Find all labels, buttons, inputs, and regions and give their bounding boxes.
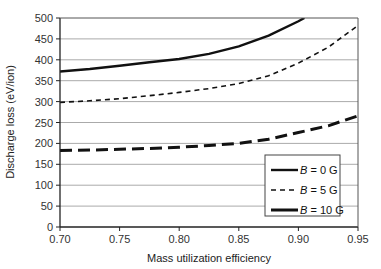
series-line-2 bbox=[60, 116, 358, 151]
x-tick-label: 0.85 bbox=[228, 233, 249, 245]
y-axis-label: Discharge loss (eV/ion) bbox=[4, 65, 16, 179]
x-axis-label: Mass utilization efficiency bbox=[147, 252, 271, 264]
y-tick-label: 300 bbox=[35, 96, 53, 108]
x-tick-label: 0.95 bbox=[347, 233, 368, 245]
y-tick-label: 200 bbox=[35, 137, 53, 149]
y-tick-label: 250 bbox=[35, 117, 53, 129]
series-line-1 bbox=[60, 26, 358, 103]
series-lines bbox=[60, 18, 358, 151]
series-line-0 bbox=[60, 18, 304, 72]
y-tick-label: 0 bbox=[47, 221, 53, 233]
y-tick-label: 500 bbox=[35, 12, 53, 24]
y-tick-label: 450 bbox=[35, 33, 53, 45]
legend: B = 0 GB = 5 GB = 10 G bbox=[265, 155, 344, 216]
y-tick-label: 400 bbox=[35, 54, 53, 66]
x-tick-label: 0.80 bbox=[168, 233, 189, 245]
chart: 050100150200250300350400450500 0.700.750… bbox=[0, 0, 381, 269]
y-tick-label: 350 bbox=[35, 75, 53, 87]
y-tick-label: 150 bbox=[35, 158, 53, 170]
legend-label-2: B = 10 G bbox=[300, 204, 344, 216]
y-tick-label: 50 bbox=[41, 200, 53, 212]
legend-label-1: B = 5 G bbox=[300, 184, 338, 196]
x-tick-label: 0.75 bbox=[109, 233, 130, 245]
x-tick-label: 0.70 bbox=[49, 233, 70, 245]
y-tick-label: 100 bbox=[35, 179, 53, 191]
y-axis-ticks: 050100150200250300350400450500 bbox=[35, 12, 60, 233]
x-axis-ticks: 0.700.750.800.850.900.95 bbox=[49, 227, 368, 245]
x-tick-label: 0.90 bbox=[288, 233, 309, 245]
legend-label-0: B = 0 G bbox=[300, 164, 338, 176]
